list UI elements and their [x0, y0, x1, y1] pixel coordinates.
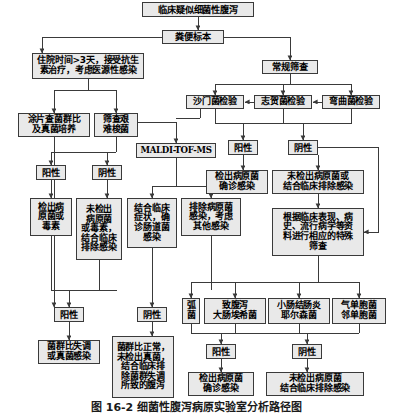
edge-maldi-to-clinical	[152, 186, 176, 198]
edge-pathogen-results-bus	[215, 109, 303, 123]
edge-nosocomial-to-cdiff	[88, 90, 116, 113]
edge-cdiff-to-neg	[107, 152, 116, 165]
flow-node-n17: 结合临床 症状，确 诊肠道菌 感染	[127, 198, 177, 248]
flow-node-n24: 小肠结肠炎 耶尔森菌	[268, 298, 330, 324]
flow-node-n1: 临床疑似细菌性腹泻	[142, 2, 254, 17]
edge-nosocomial-to-smear	[54, 90, 88, 113]
flow-node-n11: 阳性	[36, 165, 66, 180]
edge-organisms-bus	[191, 324, 359, 333]
flow-node-n23: 致腹泻 大肠埃希菌	[204, 298, 266, 324]
flow-node-n32: 检出病原菌 确诊感染	[188, 372, 254, 396]
flow-node-n28: 菌群比失调 或真菌感染	[38, 340, 100, 364]
flow-node-n33: 未检出病原菌 结合临床排除感染	[266, 372, 364, 396]
edge-cdiff-to-maldi-h	[138, 122, 176, 135]
flow-node-n12: 阴性	[92, 165, 122, 180]
flow-node-n2: 粪便标本	[162, 30, 224, 44]
flow-node-n5: 涂片查菌群比 及真菌培养	[18, 113, 90, 137]
edge-specimen-split-right	[224, 37, 290, 60]
flow-node-n7: 沙门菌检验	[186, 95, 244, 109]
flow-node-n29: 菌群比正常， 未检出真菌， 结合临床排 除菌群失调 所致的腹泻	[112, 336, 174, 398]
flow-node-n9: 弯曲菌检验	[322, 95, 380, 109]
flow-node-n21: 根据临床表现、病 史、流行病学等资 料进行相应的特殊 筛查	[272, 208, 364, 256]
flow-node-n10: MALDI-TOF-MS	[136, 143, 216, 158]
flow-node-n15: 检出病 原菌或 毒素	[30, 198, 72, 236]
flow-node-n3: 住院时间>3天，接受抗生 素治疗，考虑医源性感染	[32, 53, 144, 79]
flow-node-n18: 排除病原菌 感染，考虑 其他感染	[181, 198, 241, 236]
flow-node-n30: 阳性	[206, 344, 236, 359]
flowchart-diagram: 临床疑似细菌性腹泻粪便标本住院时间>3天，接受抗生 素治疗，考虑医源性感染常规筛…	[0, 0, 393, 414]
flow-node-n16: 未检出 病原菌 或毒素， 结合临床 排除感染	[76, 198, 122, 260]
edge-campylo-to-bus	[303, 109, 351, 123]
flow-node-n8: 志贺菌检验	[254, 95, 312, 109]
flow-node-n20: 未检出病原菌或 结合临床排除感染	[272, 170, 364, 194]
flow-node-n27: 阴性	[137, 307, 167, 322]
figure-caption: 图 16-2 细菌性腹泻病原实验室分析路径图	[0, 398, 393, 414]
flow-node-n14: 阴性	[288, 140, 318, 155]
flow-node-n6: 筛查艰 难梭菌	[94, 113, 138, 137]
flow-node-n22: 弧 菌	[182, 298, 200, 324]
flow-node-n25: 气单胞菌 邻单胞菌	[332, 298, 386, 324]
flow-node-n26: 阳性	[54, 307, 84, 322]
flow-node-n19: 检出病原菌 确诊感染	[206, 170, 268, 194]
flow-node-n31: 阴性	[292, 344, 322, 359]
flow-node-n4: 常规筛查	[262, 60, 318, 74]
edge-cdiff-to-pos	[51, 152, 116, 165]
flow-node-n13: 阳性	[228, 140, 258, 155]
